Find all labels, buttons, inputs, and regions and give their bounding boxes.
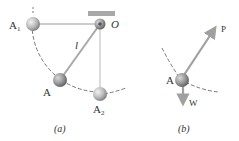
label-A1: A1 <box>9 19 21 33</box>
figure-b: A P W (b) <box>162 24 226 135</box>
label-P: P <box>221 24 226 34</box>
pivot-pin <box>98 22 102 26</box>
label-A: A <box>43 86 51 98</box>
ball-A2 <box>93 87 107 101</box>
label-W: W <box>189 98 198 108</box>
figure-a: A1 O l A A2 (a) <box>9 7 126 135</box>
caption-b: (b) <box>178 123 190 135</box>
rod-l-to-A <box>60 24 100 80</box>
label-l: l <box>75 39 78 51</box>
ball-A-freebody <box>175 73 189 87</box>
label-A-b: A <box>166 74 174 86</box>
caption-a: (a) <box>54 123 66 135</box>
dashed-arc-extension <box>104 88 126 94</box>
label-O: O <box>111 18 119 30</box>
force-arrow-P <box>182 31 213 78</box>
ball-A1 <box>26 17 40 31</box>
label-A2: A2 <box>93 103 105 117</box>
fixed-support <box>88 11 115 16</box>
ball-A <box>53 73 67 87</box>
pendulum-diagram: A1 O l A A2 (a) A P W (b) <box>0 0 239 141</box>
